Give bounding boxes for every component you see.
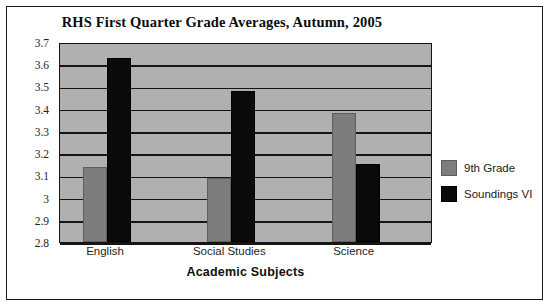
bars-layer: [60, 44, 431, 242]
bar: [83, 167, 107, 242]
y-tick-label: 3.5: [35, 81, 49, 93]
bar: [207, 178, 231, 242]
x-axis-category-labels: EnglishSocial StudiesScience: [59, 245, 432, 261]
chart-title: RHS First Quarter Grade Averages, Autumn…: [7, 14, 437, 31]
bar: [332, 113, 356, 242]
y-tick-label: 3: [43, 193, 49, 205]
y-tick-label: 3.1: [35, 170, 49, 182]
chart-legend: 9th GradeSoundings VI: [441, 155, 541, 207]
y-axis-tick-labels: 3.73.63.53.43.33.23.132.92.8: [7, 43, 55, 243]
y-tick-label: 3.6: [35, 59, 49, 71]
legend-swatch: [441, 186, 457, 202]
legend-entry: 9th Grade: [441, 155, 541, 181]
legend-label: 9th Grade: [464, 162, 515, 174]
legend-swatch: [441, 160, 457, 176]
y-tick-label: 3.2: [35, 148, 49, 160]
y-tick-label: 3.3: [35, 126, 49, 138]
legend-entry: Soundings VI: [441, 181, 541, 207]
bar: [107, 58, 131, 242]
category-label: English: [86, 245, 124, 257]
y-tick-label: 3.7: [35, 37, 49, 49]
chart-figure: RHS First Quarter Grade Averages, Autumn…: [6, 6, 543, 300]
bar: [231, 91, 255, 242]
y-tick-label: 3.4: [35, 104, 49, 116]
category-label: Science: [333, 245, 374, 257]
x-axis-title: Academic Subjects: [59, 265, 432, 279]
y-tick-label: 2.8: [35, 237, 49, 249]
plot-area: [59, 43, 432, 243]
y-tick-label: 2.9: [35, 215, 49, 227]
bar: [356, 164, 380, 242]
category-label: Social Studies: [193, 245, 266, 257]
legend-label: Soundings VI: [464, 188, 532, 200]
